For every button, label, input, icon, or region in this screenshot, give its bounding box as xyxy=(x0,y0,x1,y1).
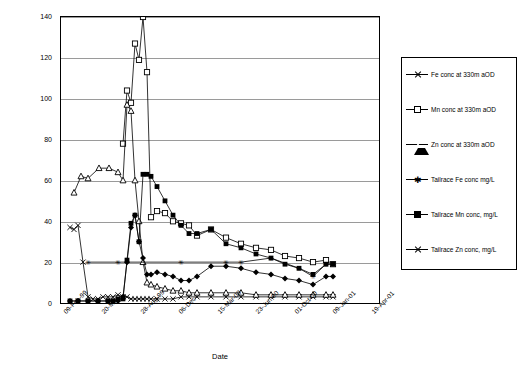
data-point-marker xyxy=(311,272,316,277)
svg-text:✳: ✳ xyxy=(238,259,244,266)
data-point-marker xyxy=(186,278,192,284)
data-point-marker xyxy=(170,219,175,224)
y-tick-label: 140 xyxy=(0,13,52,20)
data-point-marker xyxy=(140,17,145,20)
data-point-marker xyxy=(331,262,336,267)
data-point-marker xyxy=(323,273,329,279)
y-tick-label: 60 xyxy=(0,177,52,184)
data-point-marker xyxy=(224,241,229,246)
data-point-marker xyxy=(268,247,273,252)
series-line xyxy=(123,17,333,264)
legend-label: Tailrace Zn conc, mg/L xyxy=(431,246,496,253)
data-point-marker xyxy=(132,177,138,183)
plot-area: ✳✳✳✳✳✳✳✳✳✳ xyxy=(60,16,380,304)
data-point-marker xyxy=(324,262,329,267)
svg-text:✳: ✳ xyxy=(178,259,184,266)
legend-label: Mn conc at 330m aOD xyxy=(431,106,496,113)
y-tick-label: 120 xyxy=(0,54,52,61)
data-point-marker xyxy=(71,189,77,195)
data-point-marker xyxy=(194,273,200,279)
data-point-marker: ✳ xyxy=(178,259,184,266)
legend-item-zn-330: Zn conc at 330m aOD xyxy=(406,140,495,149)
legend-item-tailrace-zn: Tailrace Zn conc, mg/L xyxy=(406,245,496,254)
x-marker-icon xyxy=(406,70,428,79)
y-tick-label: 20 xyxy=(0,259,52,266)
data-point-marker xyxy=(179,223,184,228)
y-tick-label: 80 xyxy=(0,136,52,143)
data-point-marker xyxy=(223,235,228,240)
data-point-marker xyxy=(149,174,154,179)
data-point-marker xyxy=(128,100,133,105)
data-point-marker xyxy=(128,108,134,114)
legend-item-mn-330: Mn conc at 330m aOD xyxy=(406,105,496,114)
data-point-marker xyxy=(268,271,274,277)
data-point-marker xyxy=(238,265,244,271)
data-point-marker xyxy=(78,173,84,179)
x-axis-title: Date xyxy=(60,352,380,361)
data-point-marker xyxy=(171,213,176,218)
data-point-marker xyxy=(310,260,315,265)
data-point-marker xyxy=(144,70,149,75)
data-point-marker xyxy=(209,227,214,232)
data-point-marker xyxy=(162,211,167,216)
data-point-marker xyxy=(239,245,244,250)
data-point-marker xyxy=(269,256,274,261)
data-point-marker xyxy=(132,41,137,46)
legend-label: Zn conc at 330m aOD xyxy=(431,141,495,148)
data-point-marker xyxy=(282,275,288,281)
data-point-marker xyxy=(124,88,129,93)
data-point-marker xyxy=(187,231,192,236)
data-point-marker xyxy=(283,262,288,267)
legend-item-fe-330: Fe conc at 330m aOD xyxy=(406,70,495,79)
svg-text:✳: ✳ xyxy=(115,259,121,266)
data-point-marker xyxy=(253,245,258,250)
data-point-marker xyxy=(178,278,184,284)
square-filled-marker-icon xyxy=(406,210,428,219)
y-tick-label: 0 xyxy=(0,300,52,307)
data-point-marker xyxy=(154,208,159,213)
legend-label: Tailrace Fe conc mg/L xyxy=(431,176,495,183)
legend-item-tailrace-fe: ✱ Tailrace Fe conc mg/L xyxy=(406,175,495,184)
data-point-marker xyxy=(310,282,316,288)
triangle-open-marker-icon xyxy=(406,140,428,149)
data-point-marker xyxy=(330,273,336,279)
data-point-marker xyxy=(154,269,160,275)
data-point-marker xyxy=(155,184,160,189)
data-point-marker: ✳ xyxy=(238,259,244,266)
data-point-marker xyxy=(136,57,141,62)
data-point-marker xyxy=(296,278,302,284)
y-tick-label: 100 xyxy=(0,95,52,102)
series-layer: ✳✳✳✳✳✳✳✳✳✳ xyxy=(61,17,379,303)
chart-figure: Metal concentration (mg/l) 0 20 40 60 80… xyxy=(0,0,526,372)
data-point-marker xyxy=(282,253,287,258)
legend-item-tailrace-mn: Tailrace Mn conc, mg/L xyxy=(406,210,498,219)
data-point-marker xyxy=(223,290,229,296)
data-point-marker xyxy=(254,252,259,257)
data-point-marker xyxy=(162,271,168,277)
y-tick-label: 40 xyxy=(0,218,52,225)
square-open-marker-icon xyxy=(406,105,428,114)
star-marker-icon: ✱ xyxy=(406,175,428,184)
data-point-marker xyxy=(253,269,259,275)
data-point-marker xyxy=(186,223,191,228)
data-point-marker xyxy=(120,177,126,183)
data-point-marker xyxy=(208,290,214,296)
series-line xyxy=(70,215,333,301)
data-point-marker xyxy=(297,266,302,271)
data-point-marker xyxy=(208,263,214,269)
series-line xyxy=(70,174,333,301)
data-point-marker: ✳ xyxy=(115,259,121,266)
data-point-marker xyxy=(148,215,153,220)
legend-label: Fe conc at 330m aOD xyxy=(431,71,495,78)
data-point-marker xyxy=(170,273,176,279)
data-point-marker xyxy=(195,231,200,236)
x-marker-icon xyxy=(406,245,428,254)
data-point-marker xyxy=(136,218,142,224)
data-point-marker xyxy=(163,198,168,203)
data-point-marker xyxy=(140,255,146,261)
data-point-marker xyxy=(115,169,121,175)
data-point-marker: ✳ xyxy=(85,259,91,266)
chart-legend: Fe conc at 330m aOD Mn conc at 330m aOD … xyxy=(401,57,517,270)
legend-label: Tailrace Mn conc, mg/L xyxy=(431,211,498,218)
svg-text:✳: ✳ xyxy=(85,259,91,266)
